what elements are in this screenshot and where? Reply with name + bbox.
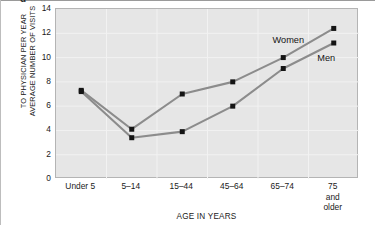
- y-tick-label: 4: [31, 124, 51, 134]
- y-tick-label: 10: [31, 52, 51, 62]
- series-label-men: Men: [317, 53, 335, 63]
- data-point-marker: [129, 127, 134, 132]
- data-point-marker: [281, 55, 286, 60]
- y-tick-label: 0: [31, 173, 51, 183]
- data-point-marker: [79, 89, 84, 94]
- data-point-marker: [180, 129, 185, 134]
- x-axis-ticks: Under 55–1415–4445–6465–7475 and older: [55, 181, 358, 215]
- data-point-marker: [331, 26, 336, 31]
- series-label-women: Women: [273, 35, 305, 45]
- data-point-marker: [230, 79, 235, 84]
- y-tick-label: 6: [31, 100, 51, 110]
- data-point-marker: [230, 104, 235, 109]
- y-tick-label: 14: [31, 3, 51, 13]
- figure-left-rule: [0, 0, 1, 225]
- x-tick-label: 5–14: [121, 181, 140, 192]
- x-tick-label: Under 5: [65, 181, 95, 192]
- figure-top-rule: [0, 0, 375, 1]
- x-tick-label: 65–74: [271, 181, 294, 192]
- y-tick-label: 12: [31, 27, 51, 37]
- data-point-marker: [180, 92, 185, 97]
- data-point-marker: [331, 41, 336, 46]
- y-axis-title-line-2: TO PHYSICIAN PER YEAR: [19, 14, 29, 108]
- plot-canvas: [56, 9, 359, 179]
- figure-chart: d AVERAGE NUMBER OF VISITS TO PHYSICIAN …: [0, 0, 375, 225]
- y-tick-label: 2: [31, 149, 51, 159]
- x-tick-label: 45–64: [220, 181, 243, 192]
- plot-area: [55, 8, 358, 178]
- data-point-marker: [129, 135, 134, 140]
- y-axis-ticks: 02468101214: [28, 8, 51, 178]
- x-axis-title: AGE IN YEARS: [55, 212, 358, 221]
- x-tick-label: 15–44: [170, 181, 193, 192]
- data-point-marker: [281, 66, 286, 71]
- y-tick-label: 8: [31, 76, 51, 86]
- x-tick-label: 75 and older: [320, 181, 345, 213]
